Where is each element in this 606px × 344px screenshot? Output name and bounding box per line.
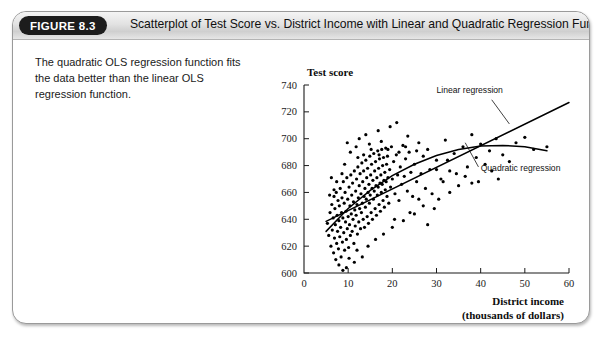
- data-point: [355, 214, 358, 217]
- data-point: [437, 198, 440, 201]
- data-point: [332, 251, 335, 254]
- data-point: [444, 138, 447, 141]
- data-point: [344, 220, 347, 223]
- y-tick-label: 600: [281, 268, 297, 279]
- data-point: [360, 211, 363, 214]
- data-point: [330, 203, 333, 206]
- data-point: [374, 160, 377, 163]
- data-point: [426, 148, 429, 151]
- linear-regression-leader: [492, 100, 510, 124]
- data-point: [333, 207, 336, 210]
- data-point: [345, 238, 348, 241]
- data-point: [435, 159, 438, 162]
- data-point: [391, 226, 394, 229]
- x-axis-subtitle: (thousands of dollars): [462, 309, 564, 322]
- data-point: [337, 247, 340, 250]
- data-point: [355, 177, 358, 180]
- plot-svg: 6006206406606807007207400102030405060Tes…: [13, 12, 590, 324]
- data-point: [408, 151, 411, 154]
- data-point: [355, 145, 358, 148]
- data-point: [488, 149, 491, 152]
- data-point: [367, 222, 370, 225]
- data-point: [415, 149, 418, 152]
- data-point: [501, 153, 504, 156]
- tick-group: 6006206406606807007207400102030405060Tes…: [281, 66, 574, 322]
- data-points-group: [326, 121, 549, 272]
- data-point: [356, 232, 359, 235]
- data-point: [368, 155, 371, 158]
- data-point: [332, 195, 335, 198]
- data-point: [424, 187, 427, 190]
- y-tick-label: 640: [281, 214, 297, 225]
- data-point: [348, 223, 351, 226]
- y-tick-label: 620: [281, 241, 297, 252]
- data-point: [383, 206, 386, 209]
- data-point: [343, 249, 346, 252]
- data-point: [383, 171, 386, 174]
- data-point: [371, 218, 374, 221]
- data-point: [370, 163, 373, 166]
- data-point: [417, 198, 420, 201]
- x-tick-label: 0: [301, 278, 306, 289]
- data-point: [342, 180, 345, 183]
- data-point: [358, 137, 361, 140]
- data-point: [453, 152, 456, 155]
- y-tick-label: 700: [281, 133, 297, 144]
- data-point: [464, 175, 467, 178]
- data-point: [457, 184, 460, 187]
- data-point: [376, 149, 379, 152]
- data-point: [388, 168, 391, 171]
- data-point: [349, 173, 352, 176]
- data-point: [395, 121, 398, 124]
- data-point: [404, 157, 407, 160]
- data-point: [371, 179, 374, 182]
- data-point: [329, 245, 332, 248]
- data-point: [374, 207, 377, 210]
- data-point: [380, 140, 383, 143]
- data-point: [399, 165, 402, 168]
- data-point: [433, 207, 436, 210]
- data-point: [367, 183, 370, 186]
- data-point: [358, 207, 361, 210]
- data-point: [362, 169, 365, 172]
- data-point: [448, 169, 451, 172]
- data-point: [377, 153, 380, 156]
- data-point: [377, 167, 380, 170]
- axes-group: [304, 85, 569, 273]
- data-point: [366, 167, 369, 170]
- y-tick-label: 740: [281, 80, 297, 91]
- data-point: [442, 180, 445, 183]
- data-point: [345, 176, 348, 179]
- data-point: [354, 224, 357, 227]
- data-point: [335, 242, 338, 245]
- data-point: [415, 180, 418, 183]
- data-point: [326, 222, 329, 225]
- data-point: [333, 236, 336, 239]
- data-point: [357, 220, 360, 223]
- data-point: [364, 133, 367, 136]
- figure-card: FIGURE 8.3 Scatterplot of Test Score vs.…: [12, 11, 590, 324]
- data-point: [389, 185, 392, 188]
- data-point: [354, 189, 357, 192]
- x-tick-label: 10: [343, 278, 354, 289]
- y-tick-label: 720: [281, 106, 297, 117]
- linear-regression-label: Linear regression: [437, 85, 504, 95]
- x-tick-label: 30: [431, 278, 442, 289]
- data-point: [350, 212, 353, 215]
- data-point: [397, 151, 400, 154]
- data-point: [361, 180, 364, 183]
- data-point: [370, 148, 373, 151]
- data-point: [545, 145, 548, 148]
- data-point: [386, 155, 389, 158]
- data-point: [363, 187, 366, 190]
- data-point: [497, 177, 500, 180]
- data-point: [389, 125, 392, 128]
- data-point: [406, 134, 409, 137]
- data-point: [393, 218, 396, 221]
- data-point: [393, 192, 396, 195]
- data-point: [330, 176, 333, 179]
- data-point: [341, 269, 344, 272]
- x-tick-label: 40: [475, 278, 486, 289]
- data-point: [455, 172, 458, 175]
- data-point: [523, 136, 526, 139]
